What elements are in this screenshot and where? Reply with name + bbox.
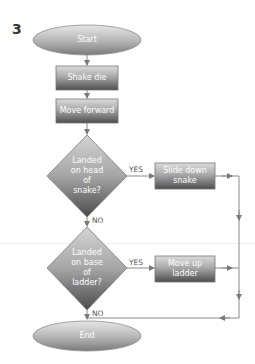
- snake-decision-line-2: on head: [57, 166, 117, 176]
- ladder-decision-line-4: ladder?: [57, 278, 117, 288]
- ladder-yes-label: YES: [129, 258, 143, 267]
- snake-decision-label: Landed on head of snake?: [57, 156, 117, 196]
- ladder-decision-line-2: on base: [57, 258, 117, 268]
- move-up-label: Move up ladder: [155, 259, 215, 279]
- end-label: End: [33, 331, 141, 341]
- flowchart: 3 Start Shake die Move forward Landed on…: [0, 0, 255, 364]
- snake-no-label: NO: [92, 216, 104, 225]
- move-up-line-2: ladder: [155, 269, 215, 279]
- shake-die-label: Shake die: [56, 73, 118, 83]
- snake-decision-line-4: snake?: [57, 186, 117, 196]
- snake-yes-label: YES: [129, 165, 143, 174]
- start-label: Start: [33, 35, 141, 45]
- figure-number: 3: [12, 21, 22, 37]
- move-up-line-1: Move up: [155, 259, 215, 269]
- snake-decision-line-3: of: [57, 176, 117, 186]
- ladder-decision-line-3: of: [57, 268, 117, 278]
- snake-decision-line-1: Landed: [57, 156, 117, 166]
- ladder-decision-label: Landed on base of ladder?: [57, 248, 117, 288]
- ladder-decision-line-1: Landed: [57, 248, 117, 258]
- slide-down-label: Slide down snake: [155, 166, 215, 186]
- slide-down-line-1: Slide down: [155, 166, 215, 176]
- slide-down-line-2: snake: [155, 176, 215, 186]
- flowchart-graphics: [0, 0, 255, 364]
- move-forward-label: Move forward: [56, 106, 118, 116]
- ladder-no-label: NO: [92, 309, 104, 318]
